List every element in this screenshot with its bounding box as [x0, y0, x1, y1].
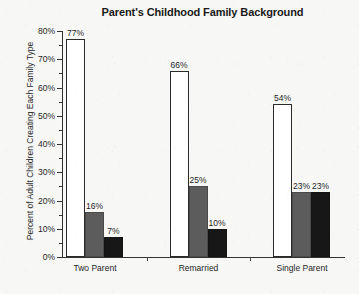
x-axis-line — [62, 257, 345, 258]
y-tick-label: 10% — [38, 224, 55, 234]
bar-value-label: 10% — [208, 218, 225, 228]
chart-title: Parent's Childhood Family Background — [60, 6, 345, 18]
y-tick-major — [57, 59, 62, 60]
y-tick-major — [57, 144, 62, 145]
y-tick-label: 30% — [38, 167, 55, 177]
y-tick-label: 60% — [38, 83, 55, 93]
y-tick-label: 0% — [43, 252, 55, 262]
y-tick-minor — [59, 243, 62, 244]
y-tick-major — [57, 201, 62, 202]
y-tick-minor — [59, 45, 62, 46]
y-tick-label: 50% — [38, 111, 55, 121]
y-tick-major — [57, 116, 62, 117]
y-tick-major — [57, 257, 62, 258]
category-label: Remarried — [179, 263, 219, 273]
bar-value-label: 7% — [107, 226, 119, 236]
bar: 10% — [208, 229, 227, 257]
y-tick-label: 80% — [38, 26, 55, 36]
category-label: Two Parent — [74, 263, 117, 273]
plot-area: 0%10%20%30%40%50%60%70%80% 77%16%7%66%25… — [62, 31, 345, 257]
bar: 66% — [170, 71, 189, 257]
y-tick-minor — [59, 130, 62, 131]
y-tick-major — [57, 172, 62, 173]
y-tick-minor — [59, 73, 62, 74]
bar: 23% — [311, 192, 330, 257]
bar-chart: Parent's Childhood Family Background Per… — [0, 0, 359, 294]
category-label: Single Parent — [276, 263, 327, 273]
bar: 25% — [189, 186, 208, 257]
y-tick-minor — [59, 215, 62, 216]
y-tick-minor — [59, 186, 62, 187]
bar-value-label: 16% — [86, 201, 103, 211]
bar: 54% — [273, 104, 292, 257]
bar-value-label: 66% — [170, 60, 187, 70]
bar-value-label: 23% — [312, 181, 329, 191]
bar: 23% — [292, 192, 311, 257]
bar-group: 54%23%23% — [273, 31, 331, 257]
bar-value-label: 25% — [189, 175, 206, 185]
y-tick-label: 40% — [38, 139, 55, 149]
bar-value-label: 54% — [274, 93, 291, 103]
y-tick-minor — [59, 158, 62, 159]
bar-group: 66%25%10% — [170, 31, 228, 257]
bar-value-label: 23% — [293, 181, 310, 191]
group-separator-tick — [147, 257, 148, 261]
y-tick-major — [57, 31, 62, 32]
bar: 7% — [104, 237, 123, 257]
y-tick-minor — [59, 102, 62, 103]
bar: 77% — [66, 39, 85, 257]
y-tick-label: 70% — [38, 54, 55, 64]
y-axis-line — [62, 31, 63, 257]
bar-value-label: 77% — [67, 28, 84, 38]
y-axis-title: Percent of Adult Children Creating Each … — [25, 25, 35, 257]
bar: 16% — [85, 212, 104, 257]
y-tick-major — [57, 229, 62, 230]
y-tick-label: 20% — [38, 196, 55, 206]
group-separator-tick — [250, 257, 251, 261]
bar-group: 77%16%7% — [66, 31, 124, 257]
y-tick-major — [57, 88, 62, 89]
